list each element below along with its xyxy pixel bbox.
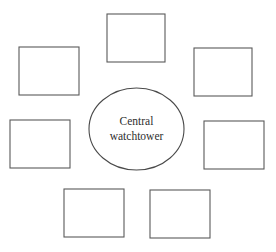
panopticon-diagram: Central watchtower — [0, 0, 276, 252]
central-watchtower-group[interactable]: Central watchtower — [89, 88, 184, 170]
cell-middle-left[interactable] — [10, 120, 70, 168]
central-watchtower-label-line2: watchtower — [110, 130, 164, 142]
central-watchtower-label-line1: Central — [120, 115, 154, 127]
cell-upper-right[interactable] — [194, 48, 252, 96]
cell-upper-left[interactable] — [19, 47, 79, 95]
cell-bottom-right[interactable] — [150, 190, 210, 238]
cell-middle-right[interactable] — [204, 121, 264, 169]
cell-bottom-left[interactable] — [64, 189, 124, 237]
diagram-canvas: Central watchtower — [0, 0, 276, 252]
cell-top[interactable] — [107, 14, 165, 62]
